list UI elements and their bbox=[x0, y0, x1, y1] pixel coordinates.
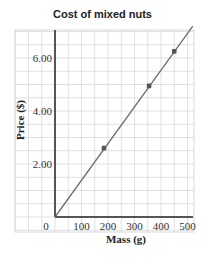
x-tick-label: 300 bbox=[126, 220, 143, 232]
trend-line bbox=[55, 26, 193, 217]
y-tick-label: 6.00 bbox=[33, 52, 53, 64]
data-point bbox=[102, 146, 107, 151]
x-tick-label: 0 bbox=[43, 220, 49, 232]
x-tick-label: 100 bbox=[73, 220, 90, 232]
x-tick-label: 200 bbox=[100, 220, 117, 232]
y-tick-label: 4.00 bbox=[33, 105, 53, 117]
y-axis-label: Price ($) bbox=[14, 100, 27, 140]
data-point bbox=[147, 84, 152, 89]
y-tick-labels: 2.004.006.00 bbox=[33, 52, 53, 170]
chart-plot: 2.004.006.00 0100200300400500 Mass (g) P… bbox=[0, 0, 205, 258]
x-axis-label: Mass (g) bbox=[106, 233, 146, 246]
data-point bbox=[172, 49, 177, 54]
x-tick-label: 400 bbox=[153, 220, 170, 232]
x-tick-label: 500 bbox=[179, 220, 196, 232]
y-tick-label: 2.00 bbox=[33, 158, 53, 170]
